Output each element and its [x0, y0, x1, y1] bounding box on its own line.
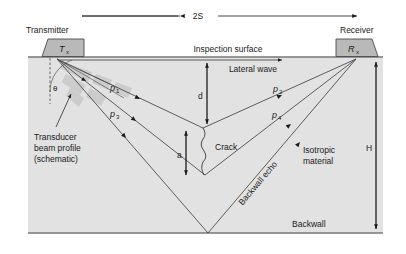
ray-p4-label: p	[271, 110, 277, 120]
ray-p3-label: p	[109, 109, 115, 119]
depth-d-label: d	[198, 91, 203, 101]
lateral-wave-label: Lateral wave	[229, 64, 277, 74]
crack-height-a-label: a	[177, 150, 182, 160]
span-2s-label: 2S	[193, 11, 204, 21]
backwall-label: Backwall	[292, 219, 326, 229]
theta-label: θ	[53, 84, 58, 93]
tofd-schematic-svg: 2S T x Transmitter R x Receiver Inspecti…	[0, 0, 406, 254]
ray-p2-label: p	[272, 84, 278, 94]
height-h-label: H	[366, 143, 372, 153]
isotropic-material-label-line1: Isotropic	[303, 145, 336, 155]
inspection-surface-label: Inspection surface	[194, 44, 263, 54]
transmitter-label: Transmitter	[26, 25, 69, 35]
transmitter-symbol-subscript: x	[66, 49, 69, 55]
crack-label: Crack	[215, 142, 238, 152]
isotropic-material-label-line2: material	[303, 156, 333, 166]
figure-canvas: 2S T x Transmitter R x Receiver Inspecti…	[0, 0, 406, 254]
receiver-symbol-label: R	[348, 44, 355, 54]
beam-profile-label-line2: beam profile	[34, 143, 81, 153]
receiver-label: Receiver	[340, 25, 374, 35]
receiver-symbol-subscript: x	[356, 49, 359, 55]
beam-profile-label-line3: (schematic)	[34, 154, 78, 164]
beam-profile-label-line1: Transducer	[34, 132, 77, 142]
